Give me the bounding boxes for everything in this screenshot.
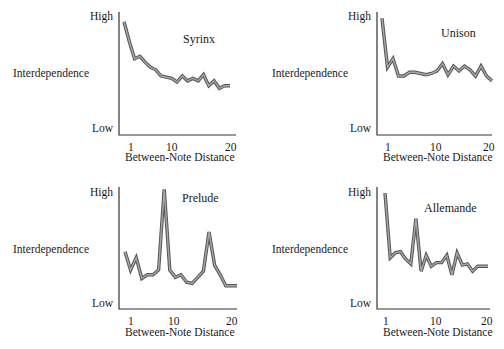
axes	[377, 187, 490, 309]
data-line	[125, 189, 237, 285]
plot-area	[0, 0, 252, 175]
axes	[119, 187, 237, 309]
data-line-outline	[125, 189, 237, 285]
axes	[119, 12, 236, 135]
data-line	[385, 193, 488, 275]
chart-panel-prelude: High Interdependence Low Prelude 1 10 20…	[0, 175, 252, 349]
plot-area	[252, 0, 504, 175]
chart-panel-unison: High Interdependence Low Unison 1 10 20 …	[252, 0, 504, 175]
data-line-outline	[124, 22, 230, 89]
chart-panel-allemande: High Interdependence Low Allemande 1 10 …	[252, 175, 504, 349]
plot-area	[252, 175, 504, 349]
chart-panel-syrinx: High Interdependence Low Syrinx 1 10 20 …	[0, 0, 252, 175]
plot-area	[0, 175, 252, 349]
